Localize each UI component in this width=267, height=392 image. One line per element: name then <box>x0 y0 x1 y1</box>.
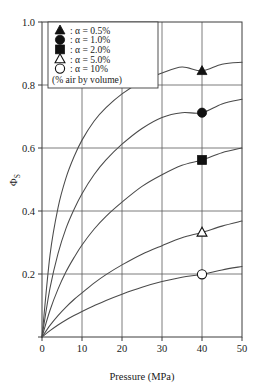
marker-filled-square-legend-2 <box>56 45 65 54</box>
chart-legend: : α = 0.5%: α = 1.0%: α = 2.0%: α = 5.0%… <box>48 22 158 88</box>
x-tick-label: 20 <box>117 343 128 354</box>
legend-label-4: : α = 10% <box>70 63 108 74</box>
x-tick-label: 10 <box>77 343 88 354</box>
marker-open-circle-legend-4 <box>55 64 64 73</box>
marker-open-circle-10 <box>197 270 206 279</box>
chart-figure: 01020304050 0.20.40.60.81.0 : α = 0.5%: … <box>0 0 267 392</box>
x-axis-title: Pressure (MPa) <box>109 371 175 383</box>
y-tick-label: 0.8 <box>22 80 35 91</box>
marker-filled-square-2 <box>198 156 207 165</box>
y-tick-label: 0.4 <box>22 206 36 217</box>
y-axis-title-subscript: S <box>13 174 22 178</box>
y-tick-label: 1.0 <box>22 17 35 28</box>
x-tick-label: 50 <box>237 343 248 354</box>
marker-filled-circle-1 <box>197 108 206 117</box>
legend-note: (% air by volume) <box>52 74 122 86</box>
y-tick-label: 0.6 <box>22 143 35 154</box>
y-tick-label: 0.2 <box>22 269 35 280</box>
x-tick-label: 30 <box>157 343 168 354</box>
x-tick-label: 0 <box>39 343 44 354</box>
x-tick-label: 40 <box>197 343 208 354</box>
phi-s-vs-pressure-chart: 01020304050 0.20.40.60.81.0 : α = 0.5%: … <box>0 0 267 392</box>
marker-filled-circle-legend-1 <box>55 35 64 44</box>
